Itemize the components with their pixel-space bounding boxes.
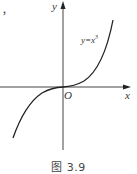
- figure-caption: 图 3.9: [0, 158, 137, 174]
- function-label-base: y=x: [81, 35, 95, 45]
- origin-label: O: [64, 90, 72, 101]
- stray-punctuation: ，: [2, 2, 12, 17]
- cubic-function-graph: [0, 0, 137, 174]
- y-axis-arrow-icon: [61, 1, 66, 9]
- x-axis-label: x: [125, 90, 130, 101]
- y-axis-label: y: [52, 1, 57, 12]
- function-label-exponent: 3: [95, 34, 98, 40]
- function-label: y=x3: [81, 34, 98, 45]
